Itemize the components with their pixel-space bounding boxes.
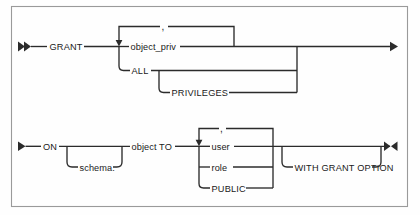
token-privileges: PRIVILEGES: [172, 88, 229, 98]
loop-back-left-top: [119, 27, 160, 43]
end-marker-arrow-pair-icon: [384, 142, 398, 151]
token-role: role: [212, 163, 228, 173]
token-schema: schema.: [80, 163, 115, 173]
branch-down-to-privileges: [159, 71, 170, 93]
repeat-separator-comma-bottom: ,: [220, 123, 223, 134]
schema-branch-in: [67, 146, 78, 167]
row1-exit-arrow-icon: [390, 42, 398, 51]
token-all: ALL: [132, 66, 149, 76]
loop-back-right-bottom: [226, 129, 273, 147]
loop-back-right-top: [168, 27, 234, 47]
token-object-priv: object_priv: [131, 42, 177, 52]
token-with-grant-option: WITH GRANT OPTION: [295, 163, 394, 173]
row-1-group: GRANT , object_priv ALL PRIVILEG: [18, 21, 398, 98]
syntax-diagram-page: GRANT , object_priv ALL PRIVILEG: [0, 0, 420, 215]
token-object-to: object TO: [132, 142, 172, 152]
token-on: ON: [43, 142, 57, 152]
loop-arrowhead-top-icon: [116, 40, 123, 47]
loop-arrowhead-bottom-icon: [196, 140, 203, 147]
grant-syntax-railroad-diagram: GRANT , object_priv ALL PRIVILEG: [0, 0, 420, 215]
diagram-frame: [12, 7, 408, 207]
token-public: PUBLIC: [212, 184, 247, 194]
with-grant-option-branch-in: [282, 146, 293, 167]
branch-down-to-all: [119, 47, 130, 71]
row-2-group: ON schema. object TO , user r: [18, 123, 398, 194]
row2-start-arrow-icon: [18, 142, 26, 152]
token-user: user: [212, 142, 230, 152]
token-grant: GRANT: [50, 42, 83, 52]
repeat-separator-comma-top: ,: [162, 21, 165, 32]
start-marker-double-arrow-icon: [18, 42, 31, 52]
